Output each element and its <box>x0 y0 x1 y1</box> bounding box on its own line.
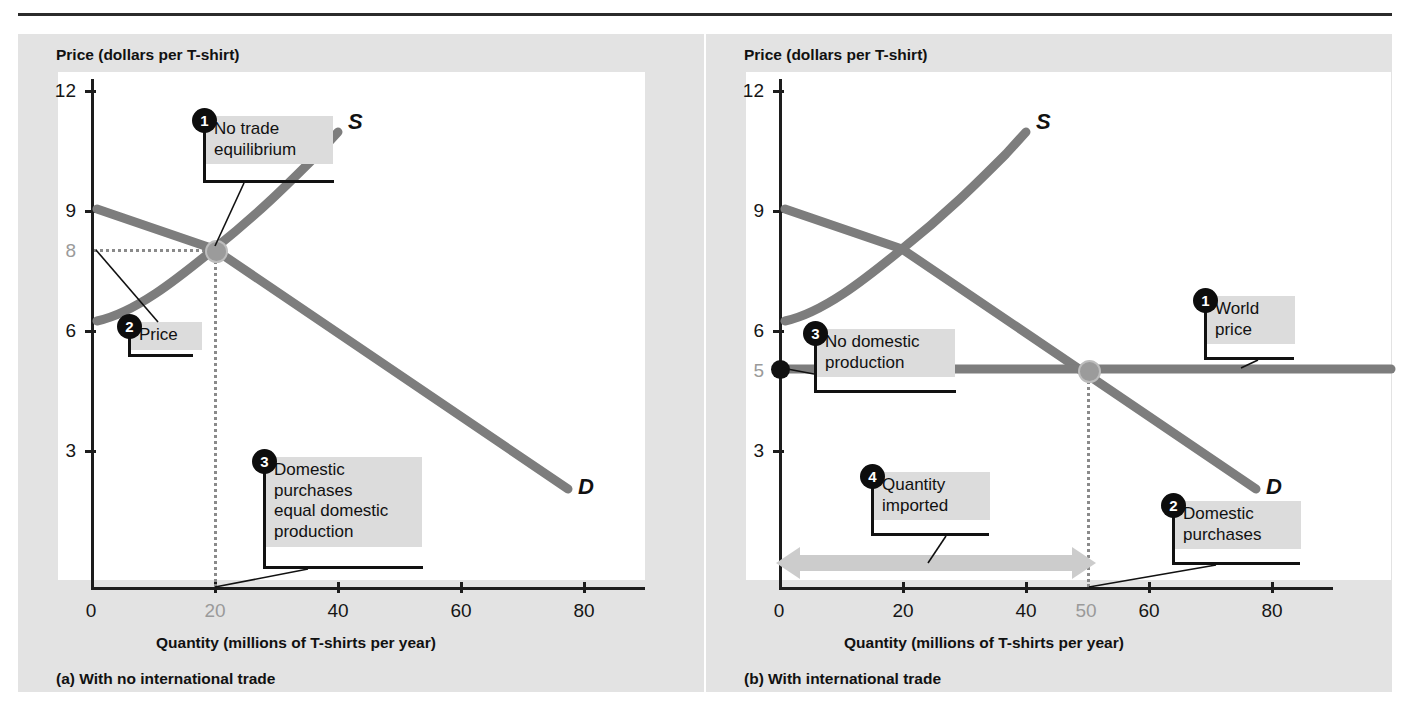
panel-a-callout-3-leader <box>18 34 704 692</box>
panel-b-x-axis-title: Quantity (millions of T-shirts per year) <box>844 634 1124 652</box>
panel-b: Price (dollars per T-shirt) 12 9 6 5 3 0… <box>706 34 1392 692</box>
panel-b-callout-2-leader <box>706 34 1392 692</box>
figure-root: Price (dollars per T-shirt) 12 9 8 6 3 0… <box>0 0 1410 726</box>
panel-a: Price (dollars per T-shirt) 12 9 8 6 3 0… <box>18 34 704 692</box>
panel-a-x-axis-title: Quantity (millions of T-shirts per year) <box>156 634 436 652</box>
header-rule <box>18 13 1392 16</box>
panel-b-caption: (b) With international trade <box>744 670 941 688</box>
cropped-header-text <box>18 0 218 8</box>
panel-a-caption: (a) With no international trade <box>56 670 275 688</box>
